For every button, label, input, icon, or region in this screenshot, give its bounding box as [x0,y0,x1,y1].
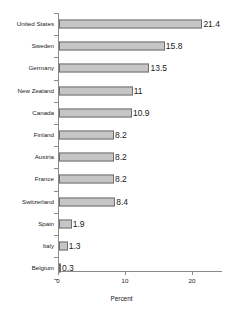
bar-row: Italy1.3 [0,235,229,257]
y-axis-tick [54,35,58,36]
bar-value-label: 1.9 [73,219,85,229]
bar-value-label: 21.4 [203,19,220,29]
bar [59,86,133,95]
bar-value-label: 8.2 [115,152,127,162]
bar-row: Austria8.2 [0,146,229,168]
y-axis-tick [54,213,58,214]
x-axis-title: Percent [0,294,229,303]
bar [59,219,72,228]
bar-value-label: 0.3 [62,263,74,273]
bar [59,242,68,251]
bar-row: New Zealand11 [0,80,229,102]
bar-value-label: 8.4 [116,197,128,207]
y-axis-tick [54,124,58,125]
y-axis-tick [54,102,58,103]
category-label: Finland [0,131,54,139]
bar-row: Germany13.5 [0,57,229,79]
x-axis-tick-label: 0 [56,277,59,285]
bar-value-label: 15.8 [166,41,183,51]
x-axis-tick [192,271,193,275]
bar [59,153,114,162]
category-label: Austria [0,153,54,161]
bar-row: Finland8.2 [0,124,229,146]
bar-value-label: 1.3 [69,241,81,251]
y-axis-tick [54,191,58,192]
plot-area: United States21.4Sweden15.8Germany13.5Ne… [0,0,229,315]
x-axis-tick [58,271,59,275]
bar [59,42,165,51]
category-label: Italy [0,242,54,250]
category-label: Belgium [0,264,54,272]
bar-value-label: 8.2 [115,130,127,140]
bar [59,131,114,140]
bar-value-label: 8.2 [115,174,127,184]
bar-chart: United States21.4Sweden15.8Germany13.5Ne… [0,0,229,315]
y-axis-tick [54,168,58,169]
y-axis-tick [54,146,58,147]
bar-row: Canada10.9 [0,102,229,124]
category-label: United States [0,20,54,28]
bar-row: Spain1.9 [0,213,229,235]
bar [59,264,61,273]
category-label: Spain [0,220,54,228]
bar [59,108,132,117]
bar-row: United States21.4 [0,13,229,35]
bar [59,197,115,206]
category-label: New Zealand [0,87,54,95]
bar-value-label: 13.5 [150,63,167,73]
x-axis-tick-label: 20 [189,277,196,285]
y-axis-tick [54,235,58,236]
category-label: Germany [0,64,54,72]
bar-value-label: 11 [134,86,143,96]
bar-row: Belgium0.3 [0,257,229,279]
bar [59,64,149,73]
x-axis-tick [125,271,126,275]
bar-value-label: 10.9 [133,108,150,118]
bar-row: Switzerland8.4 [0,191,229,213]
category-label: Canada [0,109,54,117]
category-label: France [0,175,54,183]
category-label: Sweden [0,42,54,50]
y-axis-tick [54,57,58,58]
category-label: Switzerland [0,198,54,206]
bar [59,20,202,29]
y-axis-tick [54,257,58,258]
bar [59,175,114,184]
y-axis-tick [54,80,58,81]
x-axis-tick-label: 10 [122,277,129,285]
bar-row: Sweden15.8 [0,35,229,57]
y-axis-tick [54,13,58,14]
bar-row: France8.2 [0,168,229,190]
